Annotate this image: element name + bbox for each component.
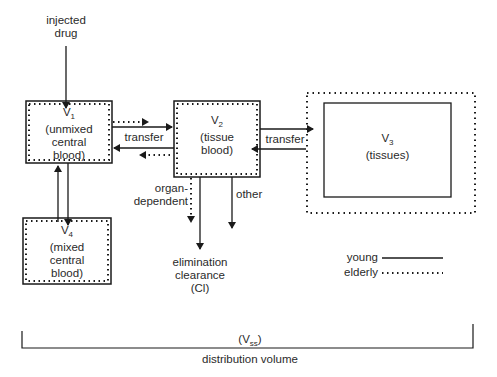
v4-line2: central	[23, 254, 111, 267]
elimination-clearance-label: elimination clearance (Cl)	[160, 256, 240, 295]
elimination-line3: (Cl)	[160, 282, 240, 295]
v2-symbol: V2	[174, 114, 260, 131]
injected-drug-line1: injected	[38, 14, 94, 27]
transfer-v1-v2-label: transfer	[118, 131, 170, 144]
transfer-v2-v3-label: transfer	[262, 133, 308, 146]
v1-symbol: V1	[26, 106, 112, 123]
v3-line1: (tissues)	[324, 149, 451, 162]
organ-dependent-label: organ- dependent	[128, 182, 188, 208]
v1-line1: (unmixed	[26, 123, 112, 136]
v3-label: V3 (tissues)	[324, 132, 451, 162]
v4-label: V4 (mixed central blood)	[23, 224, 111, 280]
vss-label: (Vss)	[210, 333, 290, 350]
distribution-volume-label: distribution volume	[180, 353, 320, 366]
organ-dependent-line2: dependent	[128, 195, 188, 208]
elimination-line2: clearance	[160, 269, 240, 282]
injected-drug-label: injected drug	[38, 14, 94, 40]
v4-symbol: V4	[23, 224, 111, 241]
legend-young-label: young	[330, 251, 378, 264]
injected-drug-line2: drug	[38, 27, 94, 40]
v1-line2: central	[26, 136, 112, 149]
v4-line1: (mixed	[23, 241, 111, 254]
v2-line1: (tissue	[174, 131, 260, 144]
v1-line3: blood)	[26, 149, 112, 162]
other-label: other	[236, 188, 266, 201]
legend-elderly-label: elderly	[330, 266, 378, 279]
elimination-line1: elimination	[160, 256, 240, 269]
v4-line3: blood)	[23, 267, 111, 280]
v1-label: V1 (unmixed central blood)	[26, 106, 112, 162]
v2-line2: blood)	[174, 144, 260, 157]
v2-label: V2 (tissue blood)	[174, 114, 260, 157]
v3-symbol: V3	[324, 132, 451, 149]
organ-dependent-line1: organ-	[128, 182, 188, 195]
